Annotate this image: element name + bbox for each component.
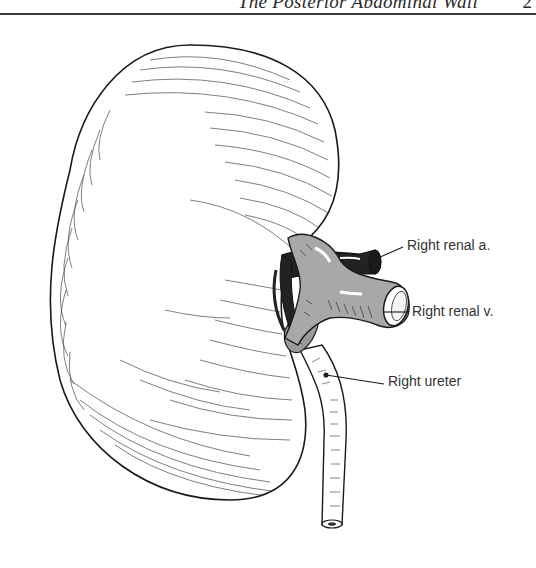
- label-right-renal-vein: Right renal v.: [412, 303, 493, 319]
- label-right-renal-artery: Right renal a.: [407, 237, 490, 253]
- right-ureter: [300, 345, 346, 528]
- kidney-illustration: [0, 0, 536, 568]
- label-right-ureter: Right ureter: [388, 373, 461, 389]
